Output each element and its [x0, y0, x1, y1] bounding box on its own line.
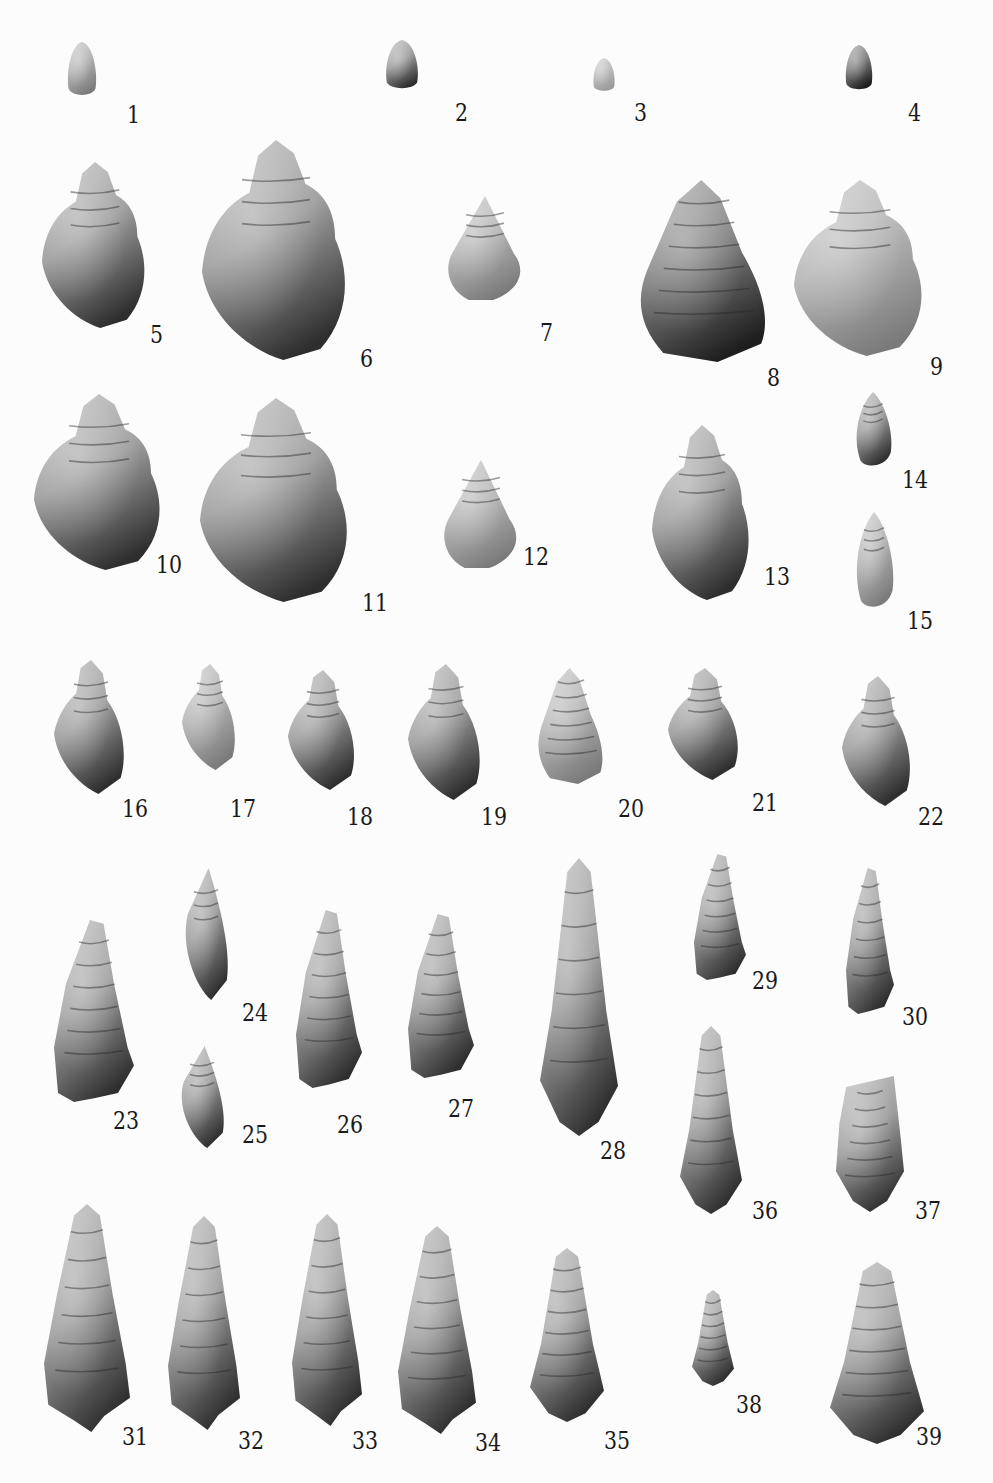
figure-number-label: 13	[764, 564, 790, 589]
specimen-figure-18	[288, 670, 358, 790]
figure-number-label: 38	[736, 1392, 762, 1417]
fossil-plate: 1234567891011121314151617181920212223242…	[0, 0, 993, 1483]
figure-number-label: 24	[242, 1000, 268, 1025]
shell-longcone-icon	[830, 1262, 924, 1444]
shell-fusiform-icon	[182, 664, 238, 770]
specimen-figure-27	[408, 914, 474, 1078]
figure-number-label: 30	[902, 1004, 928, 1029]
specimen-figure-31	[44, 1204, 130, 1432]
specimen-figure-10	[34, 394, 164, 570]
specimen-figure-29	[694, 854, 746, 980]
shell-turritella-icon	[296, 910, 362, 1088]
shell-longcone-icon	[530, 1248, 604, 1422]
specimen-figure-13	[652, 425, 752, 600]
figure-number-label: 39	[916, 1424, 942, 1449]
specimen-figure-14	[852, 392, 894, 468]
figure-number-label: 10	[156, 552, 182, 577]
figure-number-label: 2	[455, 100, 468, 125]
shell-bulbous-icon	[794, 180, 926, 356]
specimen-figure-6	[202, 140, 350, 360]
shell-turritella-icon	[694, 854, 746, 980]
specimen-figure-35	[530, 1248, 604, 1422]
specimen-figure-2	[384, 40, 420, 90]
figure-number-label: 22	[918, 804, 944, 829]
specimen-figure-19	[408, 664, 484, 800]
figure-number-label: 6	[360, 346, 373, 371]
shell-egg-icon	[66, 42, 98, 97]
figure-number-label: 21	[752, 790, 778, 815]
specimen-figure-25	[176, 1046, 228, 1148]
shell-longcone-icon	[540, 858, 618, 1136]
figure-number-label: 28	[600, 1138, 626, 1163]
shell-egg-icon	[844, 45, 874, 91]
specimen-figure-38	[692, 1290, 734, 1386]
specimen-figure-15	[852, 512, 896, 610]
shell-turritella-icon	[408, 914, 474, 1078]
shell-bulbous-icon	[202, 140, 350, 360]
shell-spindle-icon	[176, 1046, 228, 1148]
specimen-figure-39	[830, 1262, 924, 1444]
figure-number-label: 25	[242, 1122, 268, 1147]
figure-number-label: 19	[481, 804, 507, 829]
shell-fusiform-icon	[408, 664, 484, 800]
figure-number-label: 29	[752, 968, 778, 993]
shell-bulbous-icon	[34, 394, 164, 570]
specimen-figure-22	[842, 676, 914, 806]
shell-cerithium-icon	[168, 1216, 240, 1430]
shell-cerithium-icon	[292, 1214, 362, 1426]
specimen-figure-34	[398, 1226, 476, 1434]
specimen-figure-21	[668, 668, 742, 780]
figure-number-label: 14	[902, 467, 928, 492]
specimen-figure-1	[66, 42, 98, 97]
shell-slender-icon	[852, 392, 894, 468]
specimen-figure-23	[54, 920, 134, 1102]
specimen-figure-3	[592, 58, 616, 92]
shell-fusiform-icon	[842, 676, 914, 806]
shell-bulbous-icon	[42, 162, 148, 328]
figure-number-label: 35	[604, 1428, 630, 1453]
specimen-figure-30	[846, 868, 894, 1014]
shell-conical-icon	[536, 668, 606, 784]
specimen-figure-33	[292, 1214, 362, 1426]
shell-bulbous-icon	[200, 398, 352, 602]
shell-fusiform-icon	[288, 670, 358, 790]
specimen-figure-11	[200, 398, 352, 602]
shell-turritella-icon	[54, 920, 134, 1102]
specimen-figure-37	[836, 1076, 904, 1212]
specimen-figure-24	[180, 868, 232, 1000]
figure-number-label: 12	[523, 544, 549, 569]
shell-cerithium-icon	[44, 1204, 130, 1432]
specimen-figure-20	[536, 668, 606, 784]
specimen-figure-16	[54, 660, 128, 794]
specimen-figure-5	[42, 162, 148, 328]
figure-number-label: 16	[122, 796, 148, 821]
shell-trochoid-icon	[440, 460, 522, 568]
figure-number-label: 27	[448, 1096, 474, 1121]
figure-number-label: 18	[347, 804, 373, 829]
figure-number-label: 23	[113, 1108, 139, 1133]
figure-number-label: 17	[230, 796, 256, 821]
figure-number-label: 3	[634, 100, 647, 125]
shell-fusiform-icon	[54, 660, 128, 794]
shell-conical-icon	[636, 180, 772, 362]
figure-number-label: 9	[930, 354, 943, 379]
figure-number-label: 26	[337, 1112, 363, 1137]
shell-longcone-icon	[680, 1026, 742, 1214]
specimen-figure-7	[444, 196, 526, 300]
specimen-figure-32	[168, 1216, 240, 1430]
specimen-figure-4	[844, 45, 874, 91]
specimen-figure-36	[680, 1026, 742, 1214]
figure-number-label: 4	[908, 100, 921, 125]
specimen-figure-28	[540, 858, 618, 1136]
shell-egg-icon	[592, 58, 616, 92]
shell-longcone-icon	[692, 1290, 734, 1386]
figure-number-label: 36	[752, 1198, 778, 1223]
shell-fusiform-icon	[668, 668, 742, 780]
figure-number-label: 5	[150, 322, 163, 347]
shell-bulbous-icon	[652, 425, 752, 600]
shell-trochoid-icon	[444, 196, 526, 300]
shell-slender-icon	[852, 512, 896, 610]
figure-number-label: 1	[127, 102, 140, 127]
figure-number-label: 34	[475, 1430, 501, 1455]
shell-turritella-icon	[846, 868, 894, 1014]
